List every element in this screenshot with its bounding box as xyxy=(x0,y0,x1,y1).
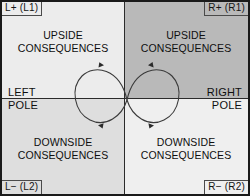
left-pole-label: LEFT POLE xyxy=(8,86,38,112)
left-pole-label-line2: POLE xyxy=(8,99,38,112)
quadrant-text-bottom-right: DOWNSIDE CONSEQUENCES xyxy=(124,136,248,162)
corner-label-top-right: R+ (R1) xyxy=(204,2,248,16)
quadrant-text-bottom-right-line1: DOWNSIDE xyxy=(124,136,248,149)
quadrant-text-top-right-line1: UPSIDE xyxy=(124,29,248,42)
right-pole-label-line2: POLE xyxy=(207,99,242,112)
corner-label-top-left: L+ (L1) xyxy=(2,2,42,16)
quadrant-text-top-right-line2: CONSEQUENCES xyxy=(124,42,248,55)
quadrant-text-bottom-left-line1: DOWNSIDE xyxy=(2,136,124,149)
right-pole-label-line1: RIGHT xyxy=(207,86,242,99)
quadrant-text-bottom-left-line2: CONSEQUENCES xyxy=(2,149,124,162)
polarity-map-diagram: L+ (L1) R+ (R1) L− (L2) R− (R2) UPSIDE C… xyxy=(0,0,250,196)
quadrant-text-top-left: UPSIDE CONSEQUENCES xyxy=(2,29,124,55)
corner-label-bottom-left: L− (L2) xyxy=(2,180,42,194)
left-pole-label-line1: LEFT xyxy=(8,86,38,99)
quadrant-text-top-left-line1: UPSIDE xyxy=(2,29,124,42)
quadrant-text-bottom-left: DOWNSIDE CONSEQUENCES xyxy=(2,136,124,162)
right-pole-label: RIGHT POLE xyxy=(207,86,242,112)
quadrant-text-bottom-right-line2: CONSEQUENCES xyxy=(124,149,248,162)
quadrant-text-top-right: UPSIDE CONSEQUENCES xyxy=(124,29,248,55)
quadrant-text-top-left-line2: CONSEQUENCES xyxy=(2,42,124,55)
corner-label-bottom-right: R− (R2) xyxy=(204,180,248,194)
